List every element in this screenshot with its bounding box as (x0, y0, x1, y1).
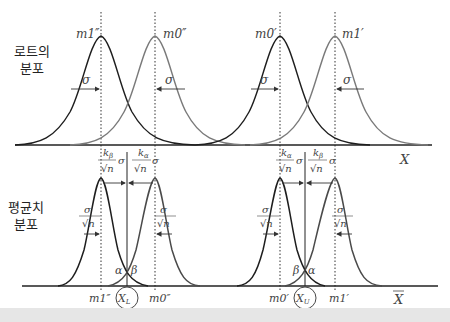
svg-text:σ: σ (152, 155, 160, 166)
label-lot-distribution-1: 로트의 (14, 44, 50, 59)
alpha-label-left: α (115, 264, 123, 277)
curve-m0-prime (195, 36, 370, 145)
bottom-axis-label: X (393, 292, 404, 307)
peak-label-m0-double-prime: m0″ (163, 27, 187, 41)
mean-curve-m1-prime (285, 178, 382, 286)
sigma-label: σ (82, 73, 91, 87)
sigma-label: σ (260, 73, 269, 87)
svg-text:√n: √n (310, 163, 323, 174)
sigma-label: σ (165, 73, 174, 87)
svg-text:σ: σ (262, 204, 270, 215)
svg-text:σ: σ (160, 204, 168, 215)
svg-text:kβ: kβ (103, 147, 113, 160)
peak-label-m0-prime: m0′ (255, 27, 277, 41)
alpha-label-right: α (308, 264, 316, 277)
svg-text:σ: σ (296, 155, 304, 166)
top-axis-label: X (399, 152, 410, 167)
peak-label-m1-double-prime: m1″ (76, 27, 100, 41)
k-fractions: kβ √nσ kα √nσ kα √nσ kβ √nσ (98, 147, 337, 174)
svg-text:√n: √n (334, 218, 347, 229)
svg-text:√n: √n (260, 218, 273, 229)
svg-text:XU: XU (295, 292, 311, 306)
svg-text:kα: kα (281, 147, 292, 160)
sampling-distribution-diagram: 로트의 분포 평균치 분포 X m1″ m0″ m0′ m1′ σ σ σ σ … (0, 0, 450, 322)
beta-label-right: β (292, 264, 299, 277)
curve-m1-prime (250, 36, 428, 145)
svg-text:σ: σ (118, 155, 126, 166)
svg-text:XL: XL (117, 292, 131, 306)
svg-text:√n: √n (134, 163, 147, 174)
sigma-label: σ (343, 73, 352, 87)
peak-label-m1-prime: m1′ (342, 27, 364, 41)
beta-label-left: β (130, 264, 137, 277)
bottom-strip (0, 308, 450, 322)
svg-text:kβ: kβ (313, 147, 323, 160)
svg-text:√n: √n (279, 163, 292, 174)
sigma-root-n-fractions: σ√n σ√n σ√n σ√n (79, 204, 353, 229)
x-label-m1-prime: m1′ (329, 292, 349, 305)
svg-text:√n: √n (82, 218, 95, 229)
svg-text:σ: σ (329, 155, 337, 166)
svg-text:√n: √n (101, 163, 114, 174)
svg-text:√n: √n (157, 218, 170, 229)
curve-m0-double-prime (70, 36, 245, 145)
label-mean-distribution-2: 분포 (14, 217, 38, 232)
upper-limit-marker: XU (294, 287, 316, 309)
label-lot-distribution-2: 분포 (20, 61, 44, 76)
svg-text:σ: σ (84, 204, 92, 215)
x-label-m0-prime: m0′ (269, 292, 289, 305)
x-label-m1-double-prime: m1″ (89, 292, 111, 305)
svg-text:kα: kα (138, 147, 149, 160)
svg-text:σ: σ (337, 204, 345, 215)
label-mean-distribution-1: 평균치 (8, 200, 44, 215)
x-label-m0-double-prime: m0″ (149, 292, 171, 305)
lower-limit-marker: XL (116, 287, 138, 309)
